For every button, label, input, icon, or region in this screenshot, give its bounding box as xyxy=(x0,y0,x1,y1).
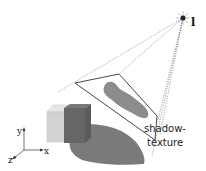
axis-x-label: x xyxy=(44,146,49,156)
light-source: l xyxy=(176,11,195,29)
occluder-box xyxy=(64,104,91,143)
axis-z-label: z xyxy=(8,155,13,165)
shadow-texture-label-line1: shadow- xyxy=(144,123,186,134)
axis-y-label: y xyxy=(16,126,23,136)
shadow-texture-diagram: l shadow- texture y x z xyxy=(0,0,206,171)
texture-shadow-blob xyxy=(103,82,148,118)
shadow-texture-label-line2: texture xyxy=(147,137,183,148)
light-label: l xyxy=(191,16,195,29)
